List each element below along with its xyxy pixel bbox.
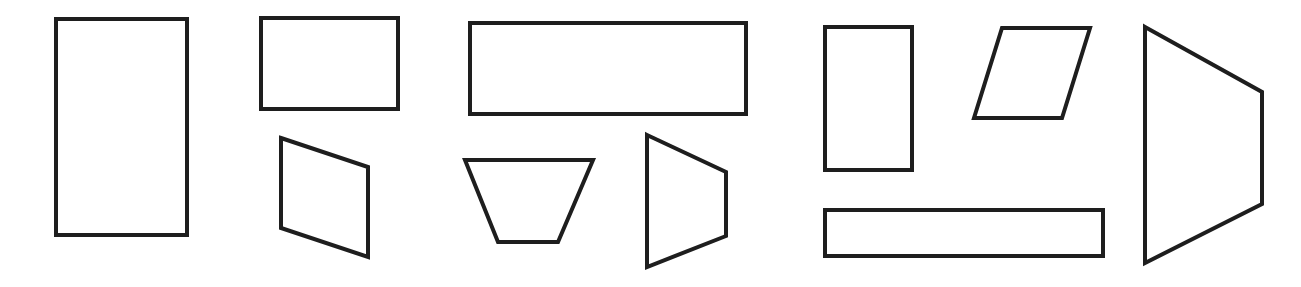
rectangle-top-middle-left-shape	[261, 18, 398, 109]
wide-rectangle-shape	[470, 23, 746, 114]
shape-layer	[56, 18, 1262, 267]
tall-rectangle-right-shape	[825, 27, 912, 170]
shapes-svg	[0, 0, 1301, 287]
parallelogram-shape	[974, 28, 1090, 118]
side-trapezoid-small-shape	[647, 135, 726, 267]
tall-rectangle-left-shape	[56, 19, 187, 235]
long-thin-rectangle-shape	[825, 210, 1103, 256]
skewed-quadrilateral-shape	[281, 138, 368, 257]
shapes-diagram	[0, 0, 1301, 287]
inverted-trapezoid-shape	[465, 160, 593, 242]
side-trapezoid-large-shape	[1145, 27, 1262, 263]
